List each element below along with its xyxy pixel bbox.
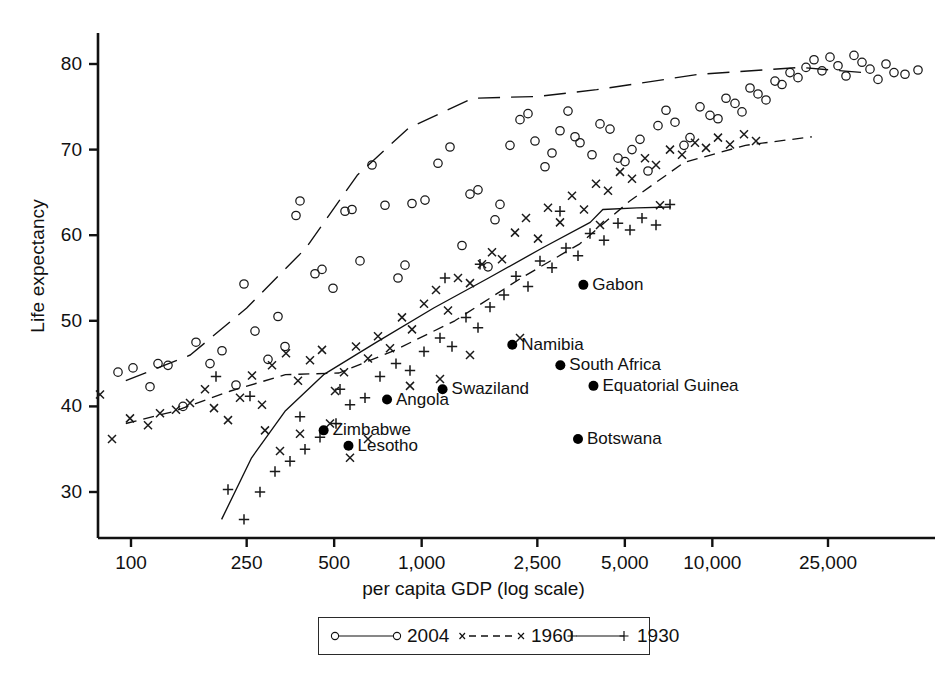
series-2004 <box>114 51 922 410</box>
y-axis-title: Life expectancy <box>27 166 49 366</box>
highlight-dot-namibia <box>507 340 517 350</box>
highlight-dot-angola <box>382 395 392 405</box>
legend-entry-1930: 1930 <box>567 625 679 647</box>
y-tick-label-50: 50 <box>42 310 82 332</box>
legend-entry-2004: 2004 <box>329 625 449 647</box>
y-tick-label-80: 80 <box>42 53 82 75</box>
x-tick-label-2500: 2,500 <box>514 552 562 574</box>
legend-swatch-1960-icon <box>457 628 527 644</box>
country-label-swaziland: Swaziland <box>452 379 530 399</box>
legend-label-1930: 1930 <box>637 625 679 647</box>
legend-swatch-1930-icon <box>567 628 633 644</box>
legend-swatch-2004-icon <box>329 628 403 644</box>
y-tick-label-40: 40 <box>42 395 82 417</box>
y-tick-label-30: 30 <box>42 481 82 503</box>
x-tick-label-1000: 1,000 <box>398 552 446 574</box>
country-label-botswana: Botswana <box>587 429 662 449</box>
legend-entry-1960: 1960 <box>457 625 573 647</box>
x-tick-label-25000: 25,000 <box>799 552 857 574</box>
x-tick-label-100: 100 <box>115 552 147 574</box>
country-label-equatorial-guinea: Equatorial Guinea <box>602 376 738 396</box>
legend-label-2004: 2004 <box>407 625 449 647</box>
highlight-dot-zimbabwe <box>319 425 329 435</box>
highlight-dot-equatorial-guinea <box>588 381 598 391</box>
chart-figure: Life expectancy per capita GDP (log scal… <box>0 0 947 680</box>
country-label-lesotho: Lesotho <box>357 436 418 456</box>
highlight-dot-botswana <box>573 434 583 444</box>
y-tick-label-70: 70 <box>42 139 82 161</box>
highlight-dot-south-africa <box>555 360 565 370</box>
country-label-namibia: Namibia <box>521 335 583 355</box>
highlight-dot-lesotho <box>343 441 353 451</box>
country-label-south-africa: South Africa <box>569 355 661 375</box>
legend: 2004 1960 1930 <box>318 617 650 655</box>
x-tick-label-250: 250 <box>231 552 263 574</box>
x-tick-label-500: 500 <box>318 552 350 574</box>
x-tick-label-5000: 5,000 <box>601 552 649 574</box>
highlight-dot-gabon <box>578 280 588 290</box>
country-label-gabon: Gabon <box>592 275 643 295</box>
country-label-angola: Angola <box>396 390 449 410</box>
x-axis-title: per capita GDP (log scale) <box>0 578 947 600</box>
y-tick-label-60: 60 <box>42 224 82 246</box>
x-tick-label-10000: 10,000 <box>683 552 741 574</box>
